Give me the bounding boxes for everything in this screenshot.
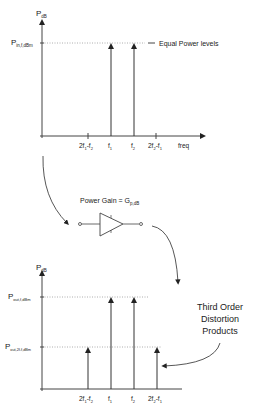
amplifier-triangle-icon xyxy=(100,213,123,236)
equal-power-annotation: Equal Power levels xyxy=(159,40,219,48)
third-order-callout: Third Order Distortion Products xyxy=(164,302,243,366)
bottom-spectrum-plot xyxy=(40,273,182,391)
svg-text:2f2-f1: 2f2-f1 xyxy=(148,395,163,404)
bottom-level-low-label: Pout,2f-f,dBm xyxy=(5,342,31,352)
power-gain-label: Power Gain = Gp,dB xyxy=(80,197,139,206)
amplifier: Power Gain = Gp,dB xyxy=(79,197,143,236)
bottom-y-axis-label: PdB xyxy=(36,263,47,273)
arrow-to-amplifier xyxy=(43,156,67,223)
callout-line-3: Products xyxy=(202,326,238,336)
svg-text:2f1-f2: 2f1-f2 xyxy=(79,395,94,404)
callout-line-2: Distortion xyxy=(201,314,239,324)
callout-line-1: Third Order xyxy=(197,302,243,312)
arrow-to-output-plot xyxy=(152,226,178,282)
svg-text:2f1-f2: 2f1-f2 xyxy=(79,142,94,151)
svg-text:freq: freq xyxy=(178,142,190,150)
intermod-diagram: PdB Pin,f,dBm Equal Power levels 2f1-f2 … xyxy=(0,0,261,408)
svg-text:f1: f1 xyxy=(108,142,113,151)
top-x-tick-labels: 2f1-f2 f1 f2 2f2-f1 freq xyxy=(79,142,190,151)
svg-text:f1: f1 xyxy=(108,395,113,404)
svg-text:f2: f2 xyxy=(131,395,136,404)
top-level-label: Pin,f,dBm xyxy=(11,38,33,48)
svg-text:f2: f2 xyxy=(131,142,136,151)
bottom-level-high-label: Pout,f,dBm xyxy=(8,292,31,302)
top-y-axis-label: PdB xyxy=(36,9,47,19)
svg-text:2f2-f1: 2f2-f1 xyxy=(148,142,163,151)
bottom-x-tick-labels: 2f1-f2 f1 f2 2f2-f1 xyxy=(79,395,163,404)
callout-arrow xyxy=(164,343,220,366)
